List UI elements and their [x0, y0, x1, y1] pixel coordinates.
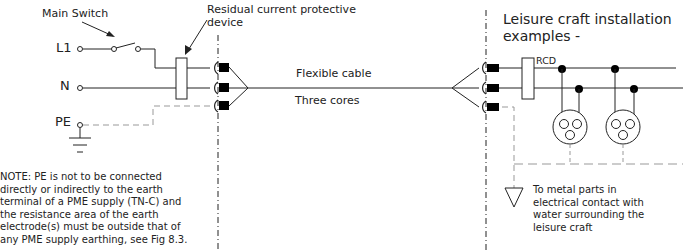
diagram-title-line2: examples -	[503, 28, 580, 45]
diagram-title-line1: Leisure craft installation	[503, 11, 672, 28]
main-switch-blade	[116, 43, 135, 48]
note-line: the resistance area of the earth	[0, 209, 187, 222]
note-line: electrode(s) must be outside that of	[0, 221, 187, 234]
flexible-cable-label: Flexible cable	[296, 67, 371, 80]
earth-electrode-note: To metal parts in electrical contact wit…	[533, 184, 644, 234]
main-switch-label: Main Switch	[42, 7, 108, 20]
rcd-device-label-line1: Residual current protective	[207, 3, 356, 16]
rcd-box-craft	[522, 58, 534, 99]
three-cores-label: Three cores	[295, 94, 360, 107]
rcd-device-label-line2: device	[207, 16, 243, 29]
note-line: directly or indirectly to the earth	[0, 184, 187, 197]
craft-connector	[483, 62, 499, 113]
shore-connector	[215, 62, 229, 112]
pe-note: NOTE: PE is not to be connected directly…	[0, 171, 187, 246]
earth-electrode-icon	[505, 188, 523, 207]
rcd-label: RCD	[536, 54, 556, 67]
note-line: To metal parts in	[533, 184, 644, 197]
terminal-n-label: N	[60, 79, 70, 92]
socket-outlet-2	[606, 110, 640, 144]
terminal-l1-label: L1	[56, 41, 72, 54]
note-line: NOTE: PE is not to be connected	[0, 171, 187, 184]
note-line: any PME supply earthing, see Fig 8.3.	[0, 234, 187, 247]
note-line: water surrounding the	[533, 209, 644, 222]
terminal-pe-label: PE	[55, 115, 71, 128]
rcd-box-shore	[176, 58, 187, 99]
note-line: terminal of a PME supply (TN-C) and	[0, 196, 187, 209]
note-line: electrical contact with	[533, 197, 644, 210]
socket-outlet-1	[553, 110, 587, 144]
note-line: leisure craft	[533, 222, 644, 235]
